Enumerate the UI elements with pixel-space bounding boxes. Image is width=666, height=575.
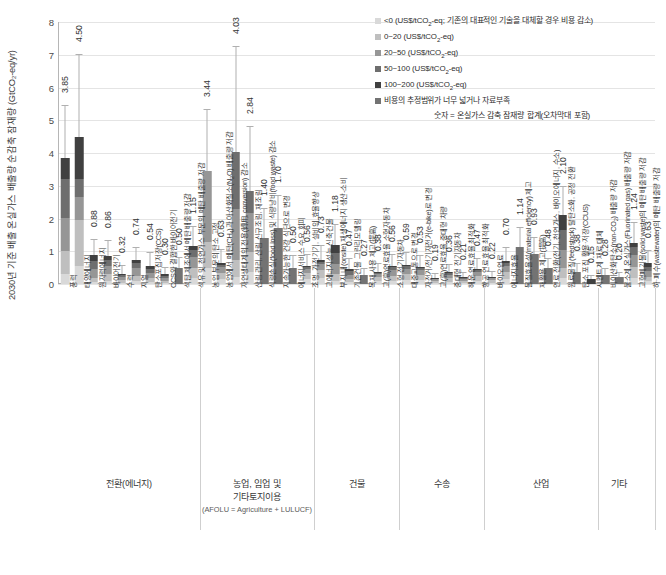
error-bar (320, 246, 321, 260)
legend-item-label: 0~20 (US$/tCO2-eq) (384, 32, 454, 45)
category-label: CCS와 결합한 바이어전기 (168, 209, 178, 288)
y-tick-label: 3 (49, 180, 54, 191)
error-bar-cap (76, 54, 83, 55)
category-label: 농업에서 메탄(CH4)과 아산화질소(N2O) 배출량 저감 (224, 131, 235, 288)
legend-item-label: 50~100 (US$/tCO2-eq) (384, 64, 462, 77)
bar-value-label: 2.84 (245, 97, 255, 114)
legend: <0 (US$/tCO2-eq; 기존의 대표적인 기술을 대체할 경우 비용 … (375, 16, 655, 120)
error-bar (278, 196, 279, 229)
legend-item[interactable]: 50~100 (US$/tCO2-eq) (375, 64, 655, 77)
error-bar (178, 258, 179, 268)
category-label: 연료 전환(전기, 천연가스, 바이오에너지, 수소) (551, 150, 561, 288)
category-label: 기존건물 그린리모델링 (352, 219, 362, 288)
category-label: 고에너지성능 신축건물 (324, 219, 334, 288)
error-bar (207, 110, 208, 171)
error-bar (79, 55, 80, 137)
legend-item[interactable]: 20~50 (US$/tCO2-eq) (375, 48, 655, 61)
error-bar (633, 223, 634, 243)
category-label: 조명, 가전기기, 설비의 효율향상 (310, 191, 320, 288)
bar-slot[interactable]: 0.74 (129, 22, 143, 284)
category-label: 탄소포집저장(CCS) (153, 228, 163, 288)
category-label: 자전거/전기자전거(e-bike)로 변경 (423, 187, 433, 288)
error-bar (534, 238, 535, 253)
bar-segment (61, 179, 70, 217)
category-label: 비이산화탄소(non-CO2) 배출량 저감 (608, 179, 619, 288)
error-bar (65, 106, 66, 158)
category-label: 에너지효율 (509, 254, 519, 288)
error-bar (93, 240, 94, 255)
bar-segment (75, 179, 84, 197)
y-tick-label: 5 (49, 115, 54, 126)
category-label: 물질효율성(material efficiency) 제고 (523, 181, 533, 288)
legend-swatch-icon (375, 66, 381, 72)
error-bar (249, 127, 250, 191)
category-label: 석유 및 천연가스 부문의 메탄 배출량 저감 (196, 163, 206, 288)
bar-value-label: 0.74 (131, 218, 141, 235)
y-tick-label: 1 (49, 246, 54, 257)
category-label: 풍력 (68, 275, 78, 289)
error-bar (562, 187, 563, 215)
bar-segment (61, 158, 70, 179)
bar-slot[interactable]: 0.88 (86, 22, 100, 284)
category-label: 불소계 온실가스(Fluorinated gas) 배출량 저감 (622, 151, 632, 288)
category-label: 산림 관리, 산림 신규조림, 재조림 (253, 190, 263, 288)
group-separator (598, 288, 599, 530)
category-label: 탄소 포집 활용·저장(CCUS) (580, 204, 590, 288)
legend-item[interactable]: 비용의 추정범위가 너무 넓거나 자료부족 (375, 96, 655, 106)
group-separator (314, 288, 315, 530)
category-label: 고(高)연료효율 소형자동차 (381, 208, 391, 288)
bar-slot[interactable]: 4.50 (72, 22, 86, 284)
category-label: 농업 부문의 탄소 고정 (210, 222, 220, 288)
y-axis-title: 2030년 기준 배출 온실가스 배출량 순감축 잠재량 (GtCO₂-eq/y… (4, 38, 18, 300)
error-bar-cap (246, 126, 253, 127)
error-bar (107, 241, 108, 255)
bar-value-label: 4.03 (231, 17, 241, 34)
category-label: 식량손실(food loss) 및 식량낭비(food waste) 감소 (267, 140, 277, 288)
group-separator (655, 288, 656, 530)
error-bar (448, 265, 449, 272)
legend-swatch-icon (375, 34, 381, 40)
category-label: 부지 내(onsite) 재생에너지 생산-소비 (338, 177, 348, 288)
category-label: 대중교통으로 변경 (409, 232, 419, 288)
bar-slot[interactable]: 0.32 (115, 22, 129, 284)
bar-segment (61, 251, 70, 275)
y-tick-label: 8 (49, 17, 54, 28)
error-bar (576, 264, 577, 271)
bar-value-label: 3.44 (202, 81, 212, 98)
bar-slot[interactable]: 3.85 (58, 22, 72, 284)
category-label: 고(高)연료효율 중대형 차량 (438, 206, 448, 288)
stacked-bar[interactable] (61, 158, 70, 284)
error-bar (647, 251, 648, 263)
category-label: 수력 (125, 275, 135, 289)
bar-value-label: 4.50 (74, 25, 84, 42)
legend-note: 숫자 = 온실가스 감축 잠재량 합계(오차막대 포함) (375, 109, 655, 120)
legend-swatch-icon (375, 50, 381, 56)
bar-segment (61, 218, 70, 251)
error-bar (221, 250, 222, 264)
error-bar-cap (62, 105, 69, 106)
category-label: 소형 전기자동차 (395, 239, 405, 288)
error-bar-cap (104, 240, 111, 241)
error-bar (306, 255, 307, 266)
legend-item[interactable]: 0~20 (US$/tCO2-eq) (375, 32, 655, 45)
category-label: 하·폐수(wastewater)의 메탄 배출량 저감 (651, 167, 661, 288)
error-bar (377, 264, 378, 272)
category-label: 지속가능한 건강 식단으로 변경 (281, 195, 291, 288)
legend-item[interactable]: 100~200 (US$/tCO2-eq) (375, 80, 655, 93)
legend-item-label: 비용의 추정범위가 너무 넓거나 자료부족 (384, 96, 510, 106)
y-tick-label: 0 (49, 279, 54, 290)
legend-item[interactable]: <0 (US$/tCO2-eq; 기존의 대표적인 기술을 대체할 경우 비용 … (375, 16, 655, 29)
error-bar (406, 253, 407, 265)
category-label: 바이오연료 (495, 254, 505, 288)
group-separator (399, 288, 400, 530)
category-label: 원료물질(feedstock) 탈탄소화, 공정 전환 (566, 167, 576, 288)
legend-swatch-icon (375, 18, 381, 24)
error-bar-cap (90, 239, 97, 240)
group-separator (484, 288, 485, 530)
bar-segment (132, 260, 141, 263)
y-tick-label: 6 (49, 82, 54, 93)
bar-segment (75, 137, 84, 179)
category-label: 원자력에너지 (97, 248, 107, 289)
category-label: 바이어전기 (111, 254, 121, 288)
bar-slot[interactable]: 0.86 (101, 22, 115, 284)
